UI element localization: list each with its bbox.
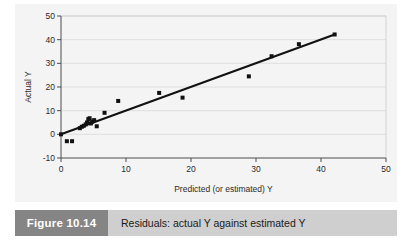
svg-text:0: 0: [59, 164, 64, 174]
figure-number-label: Figure 10.14: [27, 217, 97, 229]
svg-text:-10: -10: [43, 153, 56, 163]
svg-text:0: 0: [50, 129, 55, 139]
figure-number-badge: Figure 10.14: [15, 210, 108, 236]
svg-text:20: 20: [46, 82, 56, 92]
axis-ticks: [57, 16, 386, 162]
svg-text:40: 40: [46, 35, 56, 45]
figure-container: -100102030405001020304050 Predicted (or …: [0, 0, 412, 252]
chart-panel: -100102030405001020304050 Predicted (or …: [15, 4, 397, 202]
svg-text:30: 30: [251, 164, 261, 174]
svg-text:50: 50: [381, 164, 391, 174]
regression-fit-line: [61, 34, 335, 134]
svg-text:20: 20: [186, 164, 196, 174]
svg-text:10: 10: [121, 164, 131, 174]
svg-text:30: 30: [46, 58, 56, 68]
scatter-chart: -100102030405001020304050 Predicted (or …: [15, 4, 397, 202]
axis-tick-labels: -100102030405001020304050: [43, 11, 391, 174]
svg-text:10: 10: [46, 106, 56, 116]
figure-caption-bar: Figure 10.14 Residuals: actual Y against…: [15, 210, 397, 236]
x-axis-title: Predicted (or estimated) Y: [174, 184, 273, 194]
figure-caption-text: Residuals: actual Y against estimated Y: [121, 210, 305, 236]
svg-text:40: 40: [316, 164, 326, 174]
y-axis-title: Actual Y: [23, 71, 33, 103]
svg-text:50: 50: [46, 11, 56, 21]
